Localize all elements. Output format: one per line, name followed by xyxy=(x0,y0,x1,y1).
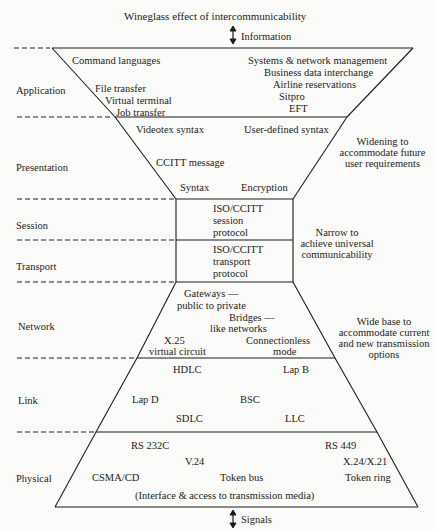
annotation-wide-base: Wide base to accommodate current and new… xyxy=(333,316,435,360)
network-item: Bridges — xyxy=(229,312,275,323)
physical-item: X.24/X.21 xyxy=(343,456,387,467)
app-item: Virtual terminal xyxy=(105,95,172,106)
pres-item: Encryption xyxy=(241,182,288,193)
link-item: SDLC xyxy=(176,413,203,424)
layer-label-session: Session xyxy=(16,220,48,231)
pres-item: Syntax xyxy=(180,182,209,193)
layer-label-link: Link xyxy=(18,395,38,406)
transport-item: transport xyxy=(213,256,250,267)
session-item: ISO/CCITT xyxy=(213,203,263,214)
layer-label-network: Network xyxy=(18,321,55,332)
network-item: virtual circuit xyxy=(149,346,206,357)
signals-label: Signals xyxy=(241,514,272,525)
layer-label-physical: Physical xyxy=(16,473,52,484)
transport-item: protocol xyxy=(213,268,248,279)
app-item: Airline reservations xyxy=(273,79,356,90)
physical-item: (Interface & access to transmission medi… xyxy=(135,490,314,501)
network-item: mode xyxy=(273,346,296,357)
link-item: BSC xyxy=(240,394,260,405)
session-item: session xyxy=(213,215,243,226)
app-item: Sitpro xyxy=(279,91,305,102)
information-arrow-icon xyxy=(230,26,236,44)
layer-label-application: Application xyxy=(16,85,66,96)
physical-item: RS 449 xyxy=(325,440,356,451)
link-item: HDLC xyxy=(173,364,202,375)
annotation-widening: Widening to accommodate future user requ… xyxy=(330,136,435,169)
session-item: protocol xyxy=(213,227,248,238)
annotation-narrow: Narrow to achieve universal communicabil… xyxy=(297,227,377,260)
app-item: Business data interchange xyxy=(264,67,373,78)
app-item: Systems & network management xyxy=(248,55,387,66)
physical-item: V.24 xyxy=(185,456,204,467)
signals-arrow-icon xyxy=(230,510,236,528)
link-item: Lap B xyxy=(283,364,309,375)
layer-label-presentation: Presentation xyxy=(16,162,68,173)
physical-item: CSMA/CD xyxy=(92,472,139,483)
network-item: X.25 xyxy=(164,335,185,346)
network-item: like networks xyxy=(210,323,267,334)
diagram-title: Wineglass effect of intercommunicability xyxy=(124,11,306,22)
link-item: LLC xyxy=(285,413,305,424)
app-item: File transfer xyxy=(95,83,146,94)
transport-item: ISO/CCITT xyxy=(213,244,263,255)
network-item: public to private xyxy=(177,300,246,311)
network-item: Gateways — xyxy=(184,288,239,299)
layer-label-transport: Transport xyxy=(16,261,56,272)
pres-item: Videotex syntax xyxy=(136,124,204,135)
pres-item: User-defined syntax xyxy=(244,124,329,135)
pres-item: CCITT message xyxy=(156,157,224,168)
physical-item: RS 232C xyxy=(131,440,169,451)
information-label: Information xyxy=(241,31,291,42)
app-item: Command languages xyxy=(72,55,160,66)
app-item: Job transfer xyxy=(116,107,165,118)
physical-item: Token bus xyxy=(220,472,263,483)
link-item: Lap D xyxy=(132,394,159,405)
network-item: Connectionless xyxy=(246,335,310,346)
physical-item: Token ring xyxy=(345,472,391,483)
app-item: EFT xyxy=(289,103,308,114)
